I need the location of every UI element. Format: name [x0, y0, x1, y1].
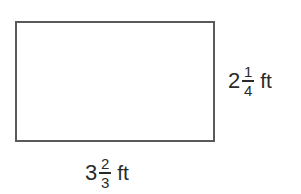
rectangle-shape [15, 21, 215, 142]
width-fraction-denominator: 3 [101, 174, 109, 190]
width-fraction-numerator: 2 [100, 156, 110, 172]
width-dimension-label: 3 2 3 ft [85, 156, 129, 190]
width-unit: ft [117, 162, 129, 183]
height-fraction-numerator: 1 [243, 64, 253, 80]
width-fraction: 2 3 [99, 156, 111, 190]
height-dimension-label: 2 1 4 ft [228, 64, 272, 98]
height-fraction-denominator: 4 [244, 82, 252, 98]
height-whole-number: 2 [228, 70, 240, 92]
height-unit: ft [260, 70, 272, 91]
height-fraction: 1 4 [242, 64, 254, 98]
width-whole-number: 3 [85, 162, 97, 184]
